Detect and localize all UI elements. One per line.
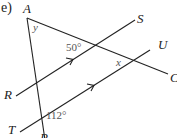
- point-t-label: T: [8, 123, 15, 136]
- point-a-label: A: [23, 2, 31, 15]
- part-label: e): [1, 1, 12, 15]
- line-ap: [27, 18, 45, 138]
- point-p-label: P: [40, 131, 48, 138]
- line-ac: [27, 18, 168, 74]
- point-s-label: S: [137, 12, 144, 25]
- point-u-label: U: [158, 38, 167, 51]
- point-r-label: R: [4, 88, 12, 101]
- geometry-diagram: e) A y S 50° U x C R T 112° P: [0, 0, 177, 138]
- angle-50-label: 50°: [66, 42, 81, 53]
- diagram-lines: [0, 0, 177, 138]
- angle-x-label: x: [116, 57, 121, 68]
- angle-y-label: y: [33, 22, 38, 33]
- angle-112-label: 112°: [46, 110, 67, 121]
- point-c-label: C: [170, 71, 177, 84]
- line-tu: [20, 50, 150, 132]
